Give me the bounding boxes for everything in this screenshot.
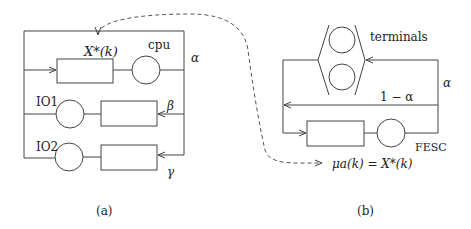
one-minus-alpha-label: 1 − α — [380, 90, 413, 104]
diagram-a: X*(k) cpu α IO1 β IO2 γ (a) — [24, 31, 199, 218]
terminal-circle-1 — [329, 27, 355, 53]
io1-server-circle — [56, 100, 84, 128]
alpha-label-a: α — [191, 51, 199, 65]
queue-label: X*(k) — [83, 44, 118, 59]
gamma-label: γ — [167, 165, 175, 179]
cpu-queue-box — [57, 59, 113, 83]
io1-label: IO1 — [36, 95, 58, 109]
alpha-label-b: α — [443, 76, 451, 90]
terminals-left-bracket — [318, 25, 329, 95]
caption-b: (b) — [357, 204, 374, 218]
fesc-server-circle — [377, 119, 405, 147]
cpu-server-circle — [132, 56, 160, 84]
queueing-network-figure: X*(k) cpu α IO1 β IO2 γ (a) terminals α … — [0, 0, 471, 229]
beta-label: β — [166, 99, 174, 113]
io2-queue-box — [101, 145, 157, 170]
dashed-connector — [98, 14, 320, 163]
fesc-label: FESC — [415, 141, 447, 154]
io1-queue-box — [101, 101, 157, 126]
terminal-circle-2 — [329, 64, 355, 90]
io2-server-circle — [55, 143, 83, 171]
cpu-label: cpu — [148, 38, 170, 52]
fesc-queue-box — [307, 121, 364, 146]
io2-label: IO2 — [36, 140, 58, 154]
arrow-into-fesc-queue — [283, 60, 318, 133]
service-rate-label: μa(k) = X*(k) — [332, 157, 413, 171]
terminals-label: terminals — [370, 30, 428, 44]
caption-a: (a) — [96, 204, 113, 218]
terminals-right-bracket — [355, 25, 365, 95]
diagram-b: terminals α 1 − α FESC μa(k) = X*(k) (b) — [283, 25, 451, 218]
